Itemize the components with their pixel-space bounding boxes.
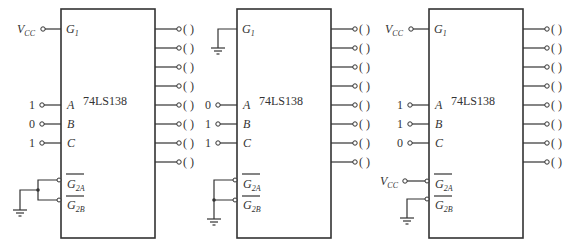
vcc-label: VCC (380, 174, 399, 190)
vcc-terminal (41, 27, 45, 31)
outputs: ( ) ( ) ( ) ( ) ( ) ( ) ( ) ( ) (523, 22, 562, 169)
input-b-value: 1 (397, 117, 403, 131)
output-blank[interactable]: ( ) (359, 22, 370, 36)
input-b-value: 1 (205, 117, 211, 131)
output-blank[interactable]: ( ) (551, 117, 562, 131)
outputs: ( ) ( ) ( ) ( ) ( ) ( ) ( ) ( ) (155, 22, 194, 169)
output-blank[interactable]: ( ) (359, 98, 370, 112)
output-blank[interactable]: ( ) (551, 41, 562, 55)
pin-a: A (434, 98, 443, 112)
pin-b: B (435, 117, 443, 131)
outputs: ( ) ( ) ( ) ( ) ( ) ( ) ( ) ( ) (331, 22, 370, 169)
pin-a: A (66, 98, 75, 112)
chip-label: 74LS138 (451, 94, 495, 108)
output-blank[interactable]: ( ) (183, 136, 194, 150)
output-blank[interactable]: ( ) (183, 98, 194, 112)
vcc-label: VCC (17, 22, 36, 38)
output-blank[interactable]: ( ) (359, 79, 370, 93)
input-a-value: 0 (205, 98, 211, 112)
circuit-3: 74LS138 VCC G1 1 A 1 B 0 C VCC G2A G2B (380, 9, 562, 238)
output-blank[interactable]: ( ) (183, 79, 194, 93)
output-blank[interactable]: ( ) (551, 155, 562, 169)
output-blank[interactable]: ( ) (551, 79, 562, 93)
output-blank[interactable]: ( ) (551, 22, 562, 36)
output-blank[interactable]: ( ) (359, 155, 370, 169)
pin-c: C (435, 136, 444, 150)
output-blank[interactable]: ( ) (183, 117, 194, 131)
circuit-2: 74LS138 G1 0 A 1 B 1 C G2A G2B (205, 9, 370, 238)
output-blank[interactable]: ( ) (183, 41, 194, 55)
output-blank[interactable]: ( ) (551, 136, 562, 150)
output-blank[interactable]: ( ) (359, 60, 370, 74)
output-blank[interactable]: ( ) (359, 41, 370, 55)
decoder-diagram: 74LS138 VCC G1 1 A 0 B 1 C G2A G2B (0, 0, 580, 251)
input-c-value: 1 (205, 136, 211, 150)
pin-c: C (67, 136, 76, 150)
input-c-value: 1 (29, 136, 35, 150)
output-blank[interactable]: ( ) (183, 60, 194, 74)
circuit-1: 74LS138 VCC G1 1 A 0 B 1 C G2A G2B (13, 9, 194, 238)
vcc-label: VCC (385, 22, 404, 38)
input-b-value: 0 (29, 117, 35, 131)
output-blank[interactable]: ( ) (183, 22, 194, 36)
output-blank[interactable]: ( ) (183, 155, 194, 169)
input-a-value: 1 (397, 98, 403, 112)
output-blank[interactable]: ( ) (359, 117, 370, 131)
output-blank[interactable]: ( ) (551, 98, 562, 112)
chip-label: 74LS138 (83, 94, 127, 108)
pin-b: B (243, 117, 251, 131)
chip-label: 74LS138 (259, 94, 303, 108)
input-a-value: 1 (29, 98, 35, 112)
input-c-value: 0 (397, 136, 403, 150)
output-blank[interactable]: ( ) (359, 136, 370, 150)
pin-a: A (242, 98, 251, 112)
pin-c: C (243, 136, 252, 150)
output-blank[interactable]: ( ) (551, 60, 562, 74)
pin-b: B (67, 117, 75, 131)
